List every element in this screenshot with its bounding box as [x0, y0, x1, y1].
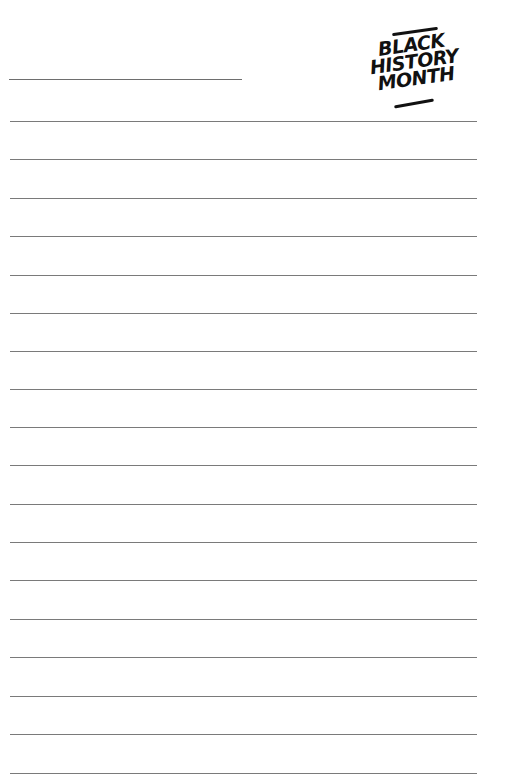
ruled-line [10, 657, 477, 658]
name-line [9, 79, 242, 80]
ruled-line [10, 773, 477, 774]
ruled-line [10, 236, 477, 237]
ruled-line [10, 734, 477, 735]
ruled-line [10, 313, 477, 314]
ruled-line [10, 427, 477, 428]
ruled-line [10, 389, 477, 390]
ruled-line [10, 121, 477, 122]
ruled-line [10, 465, 477, 466]
ruled-line [10, 542, 477, 543]
ruled-line [10, 619, 477, 620]
ruled-line [10, 159, 477, 160]
logo-text: BLACK HISTORY MONTH [367, 30, 466, 125]
ruled-line [10, 198, 477, 199]
ruled-line [10, 580, 477, 581]
ruled-line [10, 275, 477, 276]
ruled-line [10, 504, 477, 505]
ruled-line [10, 696, 477, 697]
logo: BLACK HISTORY MONTH [372, 26, 460, 110]
ruled-line [10, 351, 477, 352]
